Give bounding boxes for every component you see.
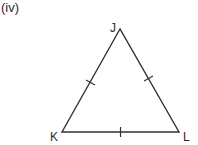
vertex-label-l: L — [183, 131, 190, 143]
tick-mark-jl — [144, 76, 153, 81]
triangle-diagram — [0, 0, 198, 145]
vertex-label-k: K — [50, 131, 58, 143]
vertex-label-j: J — [110, 22, 116, 34]
triangle-jkl — [62, 29, 179, 132]
